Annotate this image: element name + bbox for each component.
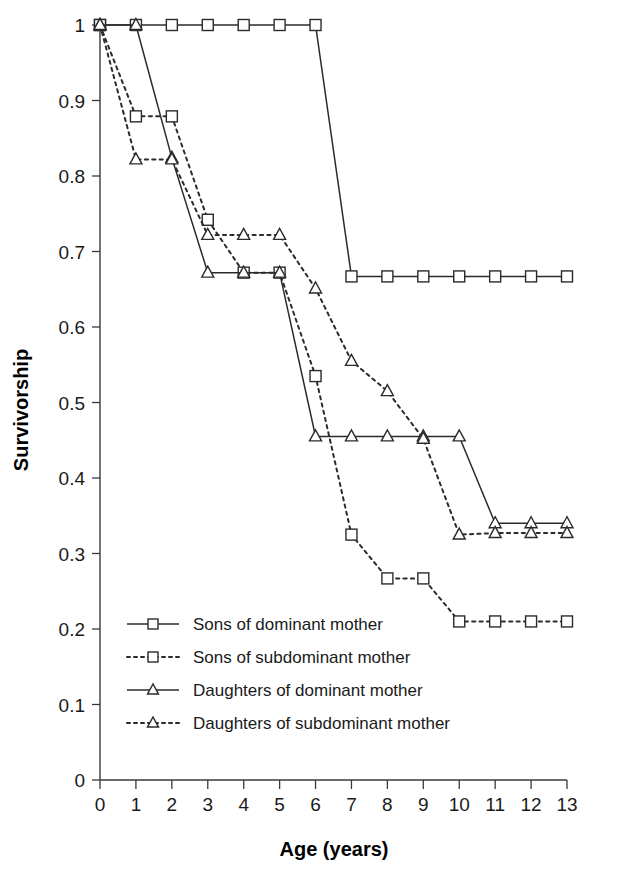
triangle-marker <box>453 430 465 441</box>
x-tick-label: 12 <box>521 794 542 815</box>
legend-label: Sons of subdominant mother <box>193 648 411 667</box>
legend-label: Sons of dominant mother <box>193 615 383 634</box>
square-marker <box>454 271 465 282</box>
legend-item-2[interactable]: Daughters of dominant mother <box>127 681 423 700</box>
x-tick-label: 2 <box>167 794 178 815</box>
y-axis: 00.10.20.30.40.50.60.70.80.91 <box>59 15 100 791</box>
series-0 <box>95 20 573 282</box>
square-marker <box>490 616 501 627</box>
square-marker <box>274 20 285 31</box>
x-tick-label: 9 <box>418 794 429 815</box>
legend-item-1[interactable]: Sons of subdominant mother <box>127 648 411 667</box>
triangle-marker <box>381 430 393 441</box>
legend-label: Daughters of subdominant mother <box>193 714 450 733</box>
data-series-group <box>94 18 573 626</box>
triangle-marker <box>202 266 214 277</box>
x-tick-label: 7 <box>346 794 357 815</box>
y-tick-label: 0.8 <box>59 166 85 187</box>
square-marker <box>310 20 321 31</box>
x-tick-label: 6 <box>310 794 321 815</box>
y-tick-label: 0.7 <box>59 242 85 263</box>
x-tick-label: 5 <box>274 794 285 815</box>
square-marker <box>454 616 465 627</box>
x-tick-label: 3 <box>202 794 213 815</box>
square-marker <box>526 616 537 627</box>
y-tick-label: 0.5 <box>59 393 85 414</box>
y-tick-label: 1 <box>74 15 85 36</box>
square-marker <box>202 214 213 225</box>
triangle-marker <box>345 430 357 441</box>
square-marker <box>382 271 393 282</box>
legend-item-3[interactable]: Daughters of subdominant mother <box>127 714 450 733</box>
x-tick-label: 4 <box>238 794 249 815</box>
x-tick-label: 11 <box>485 794 505 815</box>
square-marker <box>310 371 321 382</box>
square-marker <box>346 529 357 540</box>
x-axis-title: Age (years) <box>280 838 389 860</box>
y-axis-title: Survivorship <box>10 349 32 471</box>
square-marker <box>238 20 249 31</box>
triangle-marker <box>345 354 357 365</box>
square-marker <box>490 271 501 282</box>
square-marker <box>418 271 429 282</box>
square-marker <box>382 573 393 584</box>
y-tick-label: 0.2 <box>59 619 85 640</box>
triangle-marker <box>381 385 393 396</box>
y-tick-label: 0.1 <box>59 695 85 716</box>
square-marker <box>148 619 158 629</box>
square-marker <box>562 271 573 282</box>
y-tick-label: 0.3 <box>59 544 85 565</box>
square-marker <box>526 271 537 282</box>
legend-label: Daughters of dominant mother <box>193 681 423 700</box>
legend-item-0[interactable]: Sons of dominant mother <box>127 615 383 634</box>
y-tick-label: 0.4 <box>59 468 86 489</box>
triangle-marker <box>202 228 214 239</box>
square-marker <box>202 20 213 31</box>
x-tick-label: 8 <box>382 794 393 815</box>
triangle-marker <box>274 228 286 239</box>
triangle-marker <box>310 430 322 441</box>
triangle-marker <box>238 228 250 239</box>
survivorship-chart-figure: 00.10.20.30.40.50.60.70.80.91 0123456789… <box>0 0 621 872</box>
triangle-marker <box>148 684 159 694</box>
square-marker <box>148 652 158 662</box>
y-tick-label: 0.6 <box>59 317 85 338</box>
x-tick-label: 13 <box>556 794 577 815</box>
x-tick-label: 0 <box>95 794 106 815</box>
square-marker <box>418 573 429 584</box>
square-marker <box>130 111 141 122</box>
square-marker <box>166 111 177 122</box>
y-tick-label: 0 <box>74 770 85 791</box>
x-axis: 012345678910111213 <box>95 780 578 815</box>
square-marker <box>346 271 357 282</box>
square-marker <box>562 616 573 627</box>
triangle-marker <box>130 153 142 164</box>
x-tick-label: 10 <box>449 794 470 815</box>
y-tick-label: 0.9 <box>59 91 85 112</box>
x-tick-label: 1 <box>131 794 142 815</box>
survivorship-line-chart: 00.10.20.30.40.50.60.70.80.91 0123456789… <box>0 0 621 872</box>
square-marker <box>166 20 177 31</box>
chart-legend: Sons of dominant motherSons of subdomina… <box>127 615 450 733</box>
